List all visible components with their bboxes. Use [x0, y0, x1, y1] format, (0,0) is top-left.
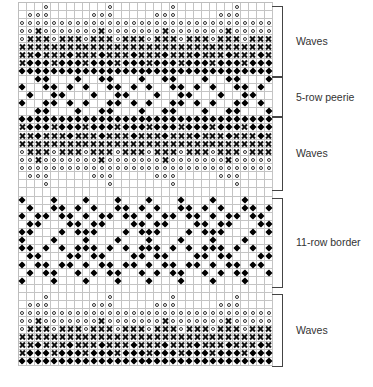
filled-diamond-icon: [90, 68, 97, 75]
chart-cell: [186, 277, 194, 285]
filled-diamond-icon: [209, 358, 216, 365]
filled-diamond-icon: [43, 59, 50, 66]
chart-cell: [233, 221, 241, 229]
open-circle-icon: [84, 327, 88, 331]
chart-cell: [257, 253, 265, 261]
chart-cell: [138, 156, 146, 164]
cross-icon: [59, 149, 65, 155]
filled-diamond-icon: [233, 116, 240, 123]
chart-cell: [35, 132, 43, 140]
chart-cell: [249, 100, 257, 108]
chart-row: [19, 124, 273, 132]
open-circle-icon: [235, 295, 239, 299]
chart-cell: [114, 19, 122, 27]
cross-icon: [218, 342, 224, 348]
filled-diamond-icon: [241, 358, 248, 365]
chart-cell: [122, 229, 130, 237]
chart-cell: [27, 156, 35, 164]
cross-icon: [27, 133, 33, 139]
chart-cell: [178, 188, 186, 196]
chart-cell: [202, 358, 210, 366]
chart-cell: [114, 188, 122, 196]
chart-cell: [194, 124, 202, 132]
open-circle-icon: [92, 174, 96, 178]
open-circle-icon: [84, 37, 88, 41]
filled-diamond-icon: [209, 116, 216, 123]
chart-cell: [210, 124, 218, 132]
chart-cell: [67, 253, 75, 261]
cross-icon: [51, 350, 57, 356]
chart-cell: [186, 253, 194, 261]
chart-cell: [43, 213, 51, 221]
chart-cell: [146, 68, 154, 76]
chart-cell: [249, 205, 257, 213]
chart-cell: [202, 326, 210, 334]
filled-diamond-icon: [122, 350, 129, 357]
chart-cell: [233, 76, 241, 84]
cross-icon: [83, 133, 89, 139]
filled-diamond-icon: [194, 213, 201, 220]
chart-cell: [178, 19, 186, 27]
chart-cell: [90, 84, 98, 92]
chart-cell: [67, 35, 75, 43]
chart-cell: [106, 156, 114, 164]
chart-cell: [138, 229, 146, 237]
chart-cell: [170, 84, 178, 92]
chart-cell: [162, 11, 170, 19]
chart-cell: [138, 293, 146, 301]
filled-diamond-icon: [122, 124, 129, 131]
chart-row: [19, 237, 273, 245]
chart-cell: [59, 269, 67, 277]
chart-cell: [249, 35, 257, 43]
chart-cell: [122, 124, 130, 132]
chart-cell: [241, 293, 249, 301]
filled-diamond-icon: [170, 116, 177, 123]
filled-diamond-icon: [178, 358, 185, 365]
filled-diamond-icon: [90, 350, 97, 357]
chart-row: [19, 334, 273, 342]
chart-cell: [186, 92, 194, 100]
cross-icon: [19, 44, 25, 50]
chart-cell: [210, 301, 218, 309]
chart-cell: [114, 11, 122, 19]
chart-cell: [35, 148, 43, 156]
chart-cell: [43, 350, 51, 358]
chart-cell: [130, 205, 138, 213]
chart-cell: [217, 197, 225, 205]
chart-cell: [27, 269, 35, 277]
chart-cell: [67, 188, 75, 196]
filled-diamond-icon: [59, 245, 66, 252]
cross-icon: [266, 334, 272, 340]
filled-diamond-icon: [19, 358, 26, 365]
chart-cell: [83, 309, 91, 317]
filled-diamond-icon: [43, 76, 50, 83]
open-circle-icon: [147, 21, 151, 25]
filled-diamond-icon: [59, 92, 66, 99]
filled-diamond-icon: [27, 358, 34, 365]
chart-cell: [217, 76, 225, 84]
chart-cell: [257, 293, 265, 301]
open-circle-icon: [52, 150, 56, 154]
chart-cell: [59, 84, 67, 92]
filled-diamond-icon: [217, 253, 224, 260]
filled-diamond-icon: [67, 124, 74, 131]
filled-diamond-icon: [90, 229, 97, 236]
open-circle-icon: [259, 21, 263, 25]
cross-icon: [67, 141, 73, 147]
chart-cell: [67, 301, 75, 309]
cross-icon: [186, 44, 192, 50]
filled-diamond-icon: [257, 59, 264, 66]
chart-cell: [225, 245, 233, 253]
chart-cell: [154, 229, 162, 237]
cross-icon: [99, 44, 105, 50]
chart-cell: [210, 11, 218, 19]
cross-icon: [59, 141, 65, 147]
chart-cell: [35, 11, 43, 19]
cross-icon: [178, 44, 184, 50]
cross-icon: [170, 334, 176, 340]
chart-cell: [233, 205, 241, 213]
open-circle-icon: [44, 303, 48, 307]
filled-diamond-icon: [51, 237, 58, 244]
chart-cell: [114, 140, 122, 148]
bracket-border: [272, 198, 283, 288]
